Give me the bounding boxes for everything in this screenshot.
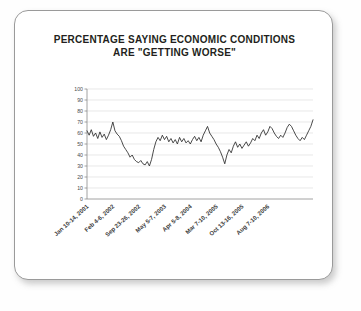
y-axis-tick-label: 70 xyxy=(77,119,83,125)
data-series-line xyxy=(87,120,313,166)
line-chart: 1009080706050403020100Jan 10-14, 2001Feb… xyxy=(15,11,334,281)
y-axis-tick-label: 0 xyxy=(80,196,83,202)
y-axis-tick-label: 90 xyxy=(77,97,83,103)
plot-area: 1009080706050403020100Jan 10-14, 2001Feb… xyxy=(15,11,334,281)
y-axis-tick-label: 20 xyxy=(77,174,83,180)
y-axis-tick-label: 50 xyxy=(77,141,83,147)
y-axis-tick-label: 40 xyxy=(77,152,83,158)
y-axis-tick-label: 60 xyxy=(77,130,83,136)
chart-card: PERCENTAGE SAYING ECONOMIC CONDITIONS AR… xyxy=(14,10,333,280)
y-axis-tick-label: 80 xyxy=(77,108,83,114)
page-root: PERCENTAGE SAYING ECONOMIC CONDITIONS AR… xyxy=(0,0,361,311)
x-axis-tick-label: Jan 10-14, 2001 xyxy=(53,203,90,237)
y-axis-tick-label: 30 xyxy=(77,163,83,169)
y-axis-tick-label: 10 xyxy=(77,185,83,191)
y-axis-tick-label: 100 xyxy=(74,86,83,92)
